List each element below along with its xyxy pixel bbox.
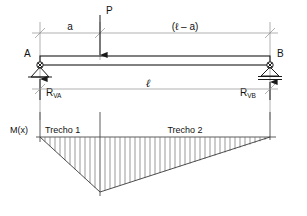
beam-body	[40, 56, 270, 65]
dimension-label-total-span: ℓ	[146, 77, 151, 89]
witness-lines	[40, 22, 270, 120]
moment-axis-label: M(x)	[10, 125, 28, 135]
beam-diagram-svg: a (ℓ – a) P A B	[0, 0, 307, 216]
dimension-label-right-span: (ℓ – a)	[172, 21, 199, 32]
point-load-label: P	[106, 5, 113, 16]
dimension-label-a: a	[67, 21, 73, 32]
support-a-label: A	[24, 48, 31, 59]
beam-diagram-figure: a (ℓ – a) P A B	[0, 0, 307, 216]
reaction-b-subscript: VB	[247, 92, 256, 99]
segment-2-label: Trecho 2	[167, 125, 202, 135]
reaction-a-subscript: VA	[53, 92, 62, 99]
support-b-label: B	[277, 48, 284, 59]
segment-1-label: Trecho 1	[45, 125, 80, 135]
